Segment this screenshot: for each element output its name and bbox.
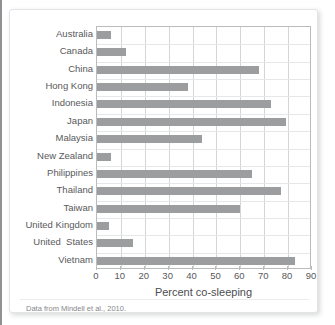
y-axis-label: Australia	[56, 26, 93, 42]
bar	[97, 205, 240, 213]
plot-area	[96, 26, 311, 269]
bar	[97, 31, 111, 39]
bar-chart: AustraliaCanadaChinaHong KongIndonesiaJa…	[10, 10, 319, 314]
y-axis-label: Canada	[60, 43, 93, 59]
bar	[97, 170, 252, 178]
bar	[97, 66, 259, 74]
page-edge-rule	[0, 0, 2, 325]
x-tick-label: 70	[258, 270, 269, 281]
y-axis-label: Vietnam	[58, 252, 93, 268]
bar-row	[97, 96, 310, 112]
bar-row	[97, 235, 310, 251]
x-tick-label: 50	[210, 270, 221, 281]
x-tick-label: 60	[234, 270, 245, 281]
x-tick-label: 10	[115, 270, 126, 281]
bar	[97, 83, 188, 91]
bar	[97, 187, 281, 195]
x-tick-label: 0	[93, 270, 98, 281]
y-axis-category-labels: AustraliaCanadaChinaHong KongIndonesiaJa…	[10, 26, 93, 269]
y-axis-label: United States	[33, 234, 93, 250]
bar-row	[97, 218, 310, 234]
figure-caption: Data from Mindell et al., 2010.	[26, 304, 126, 313]
bar-row	[97, 62, 310, 78]
bar-row	[97, 183, 310, 199]
x-tick-label: 80	[282, 270, 293, 281]
bar	[97, 222, 109, 230]
bar-row	[97, 44, 310, 60]
bar-row	[97, 79, 310, 95]
bar-row	[97, 166, 310, 182]
y-axis-label: China	[68, 61, 93, 77]
bar	[97, 118, 286, 126]
x-tick-label: 40	[186, 270, 197, 281]
bar	[97, 153, 111, 161]
bar	[97, 239, 133, 247]
x-tick-label: 30	[162, 270, 173, 281]
bar	[97, 257, 295, 265]
caption-divider	[20, 299, 309, 300]
y-axis-label: Thailand	[57, 182, 93, 198]
y-axis-label: New Zealand	[37, 148, 93, 164]
bar-row	[97, 253, 310, 269]
y-axis-label: Philippines	[47, 165, 93, 181]
y-axis-label: Taiwan	[63, 200, 93, 216]
x-axis-title: Percent co-sleeping	[96, 286, 311, 298]
bar	[97, 100, 271, 108]
bar	[97, 135, 202, 143]
bar-row	[97, 27, 310, 43]
y-axis-label: Malaysia	[56, 130, 94, 146]
y-axis-label: Hong Kong	[45, 78, 93, 94]
y-axis-label: Japan	[67, 113, 93, 129]
x-tick-label: 90	[306, 270, 317, 281]
figure-panel: AustraliaCanadaChinaHong KongIndonesiaJa…	[9, 9, 318, 313]
y-axis-label: Indonesia	[52, 95, 93, 111]
bar	[97, 48, 126, 56]
x-tick-label: 20	[138, 270, 149, 281]
y-axis-label: United Kingdom	[25, 217, 93, 233]
x-axis-ticks: 0102030405060708090	[96, 270, 311, 284]
bar-row	[97, 201, 310, 217]
bar-row	[97, 149, 310, 165]
bar-row	[97, 131, 310, 147]
bar-row	[97, 114, 310, 130]
